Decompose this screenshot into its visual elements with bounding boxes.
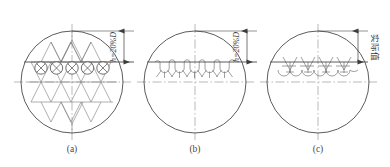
loop-unit [187, 62, 203, 78]
circle-marker [81, 62, 93, 74]
dimension-c: 实际值 [358, 31, 380, 62]
panel-c-caption: (c) [313, 144, 324, 155]
dimension-a-label: h=20%D [109, 32, 118, 62]
panel-a-caption: (a) [67, 144, 78, 155]
circle-marker [50, 62, 62, 74]
circle-marker [35, 62, 47, 74]
loop-unit [202, 62, 218, 78]
panel-a-circle-markers [35, 62, 109, 74]
circle-marker [97, 62, 109, 74]
dimension-a: h=20%D [109, 31, 124, 62]
loop-unit [172, 62, 188, 78]
panel-b-caption: (b) [189, 144, 200, 155]
loop-unit [217, 62, 233, 78]
dimension-b: h=20%D [232, 31, 247, 62]
star-unit [318, 57, 333, 73]
technical-figure: (a) h=20%D [0, 0, 390, 167]
loop-unit [157, 62, 173, 78]
circle-marker [66, 62, 78, 74]
dimension-c-label: 实际值 [370, 34, 380, 61]
figure-canvas: (a) h=20%D [0, 0, 390, 167]
dimension-b-label: h=20%D [232, 32, 241, 62]
panel-c: (c) [260, 24, 377, 155]
star-unit [282, 57, 297, 73]
